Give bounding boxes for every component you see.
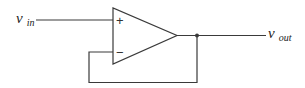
circuit-diagram: + − v in v out	[0, 0, 305, 88]
output-label-symbol: v	[268, 25, 275, 41]
minus-sign: −	[116, 45, 124, 60]
output-label: v out	[268, 24, 292, 43]
input-label-subscript: in	[27, 17, 35, 28]
plus-sign: +	[116, 13, 124, 28]
output-label-subscript: out	[279, 32, 292, 43]
input-label-symbol: v	[16, 10, 23, 26]
feedback-wire	[89, 36, 197, 83]
input-label: v in	[16, 9, 34, 28]
